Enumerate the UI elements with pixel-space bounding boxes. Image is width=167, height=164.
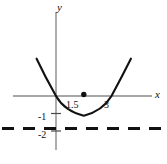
x-axis-label: x [155,89,160,100]
x-tick-label-1-5: 1.5 [66,100,79,110]
plot-canvas [0,0,167,164]
x-tick-label-3: 3 [104,100,109,110]
graph-figure: y x 1.5 3 -1 -2 [0,0,167,164]
marked-point-dot [81,92,86,97]
y-tick-label-minus-1: -1 [38,112,46,122]
y-tick-label-minus-2: -2 [38,130,46,140]
y-axis-label: y [57,2,62,13]
parabola-curve [37,59,131,116]
